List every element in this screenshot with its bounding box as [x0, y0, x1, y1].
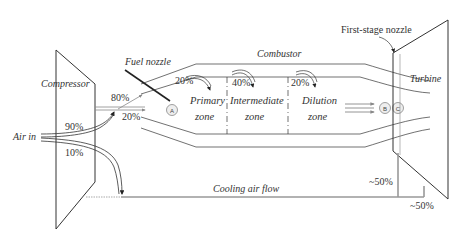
- dilution-zone-suffix: zone: [307, 111, 328, 122]
- split-90-label: 90%: [65, 121, 83, 132]
- turbine-label: Turbine: [410, 73, 442, 84]
- primary-zone: 20% Primary zone: [175, 75, 225, 122]
- intermediate-zone-suffix: zone: [244, 111, 265, 122]
- intermediate-zone-name: Intermediate: [229, 95, 284, 106]
- primary-zone-air-pct: 20%: [175, 75, 193, 86]
- exit-flow: [345, 104, 374, 112]
- dilution-zone-name: Dilution: [301, 95, 337, 106]
- primary-zone-name: Primary: [189, 95, 225, 106]
- first-stage-nozzle-label: First-stage nozzle: [341, 24, 412, 35]
- fuel-nozzle-pointer: [125, 70, 170, 101]
- air-in-label: Air in: [12, 131, 36, 142]
- station-a: A: [167, 105, 178, 116]
- station-b-label: B: [383, 106, 387, 112]
- cooling-split-1-label: ~50%: [369, 176, 393, 187]
- cooling-air-flow: Cooling air flow ~50% ~50%: [86, 153, 434, 211]
- dilution-zone: 20% Dilution zone: [291, 71, 337, 122]
- station-b: B: [380, 103, 391, 114]
- station-c: C: [393, 103, 404, 114]
- compressor-label: Compressor: [41, 78, 90, 89]
- intermediate-zone: 40% Intermediate zone: [229, 70, 284, 122]
- station-a-label: A: [170, 108, 174, 114]
- cooling-split-2-label: ~50%: [410, 200, 434, 211]
- fuel-nozzle-label: Fuel nozzle: [124, 56, 171, 67]
- split-20-label: 20%: [122, 111, 140, 122]
- compressor-discharge: 80% 20%: [95, 92, 145, 122]
- gas-turbine-diagram: Compressor Air in 90% 10% 80% 20% Fuel n…: [0, 0, 461, 237]
- dilution-zone-air-pct: 20%: [291, 77, 309, 88]
- intermediate-zone-air-pct: 40%: [232, 77, 250, 88]
- split-10-label: 10%: [65, 147, 83, 158]
- split-80-label: 80%: [111, 92, 129, 103]
- primary-zone-suffix: zone: [194, 111, 215, 122]
- compressor: Compressor: [41, 50, 95, 229]
- fuel-nozzle: Fuel nozzle: [124, 56, 171, 101]
- combustor-label: Combustor: [257, 48, 302, 59]
- air-inlet: Air in 90% 10%: [12, 112, 122, 194]
- cooling-air-flow-label: Cooling air flow: [213, 183, 279, 194]
- combustor-casing: Combustor: [141, 48, 430, 147]
